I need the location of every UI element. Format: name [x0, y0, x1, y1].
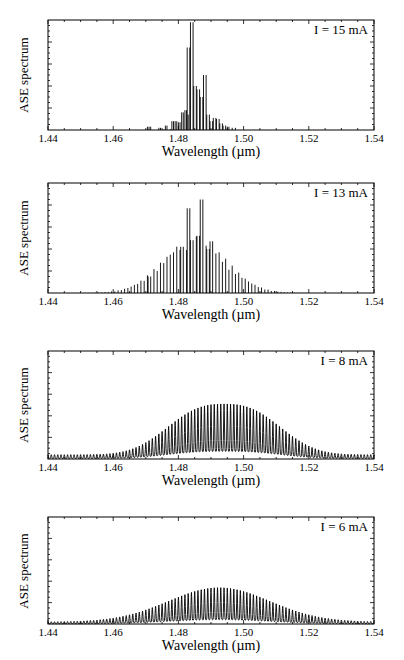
x-tick-label: 1.50: [224, 626, 264, 638]
x-tick-label: 1.44: [28, 626, 68, 638]
spectrum-trace: [48, 588, 374, 624]
x-tick-label: 1.48: [158, 626, 198, 638]
current-annotation: I = 6 mA: [321, 519, 368, 535]
x-tick-label: 1.54: [354, 626, 394, 638]
x-tick-label: 1.46: [93, 626, 133, 638]
plot-area: [0, 0, 404, 660]
x-tick-label: 1.52: [289, 626, 329, 638]
y-axis-label: ASE spectrum: [16, 521, 32, 621]
x-axis-label: Wavelength (µm): [111, 638, 311, 654]
